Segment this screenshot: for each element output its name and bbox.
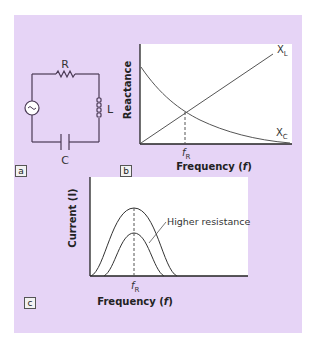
panel-tag-a: a <box>15 165 27 177</box>
fr-label-b: fR <box>182 147 191 161</box>
rlc-circuit <box>25 71 101 150</box>
resistor-label: R <box>61 58 69 71</box>
resistor-icon <box>56 71 75 77</box>
reactance-ylabel: Reactance <box>122 61 133 120</box>
current-ylabel: Current (I) <box>67 188 78 247</box>
panel-tag-c: c <box>24 297 36 309</box>
panel-tag-b: b <box>120 165 132 177</box>
inductor-label: L <box>107 103 114 116</box>
inductor-icon <box>97 98 101 117</box>
current-xlabel: Frequency (f) <box>97 296 173 307</box>
ac-source-icon <box>25 101 39 115</box>
reactance-xlabel: Frequency (f) <box>176 161 252 172</box>
higher-resistance-annotation: Higher resistance <box>167 216 250 227</box>
figure-canvas: R L C XL XC fR Frequency (f) Reactance H… <box>0 0 311 339</box>
capacitor-label: C <box>61 154 69 167</box>
fr-label-c: fR <box>131 280 140 294</box>
